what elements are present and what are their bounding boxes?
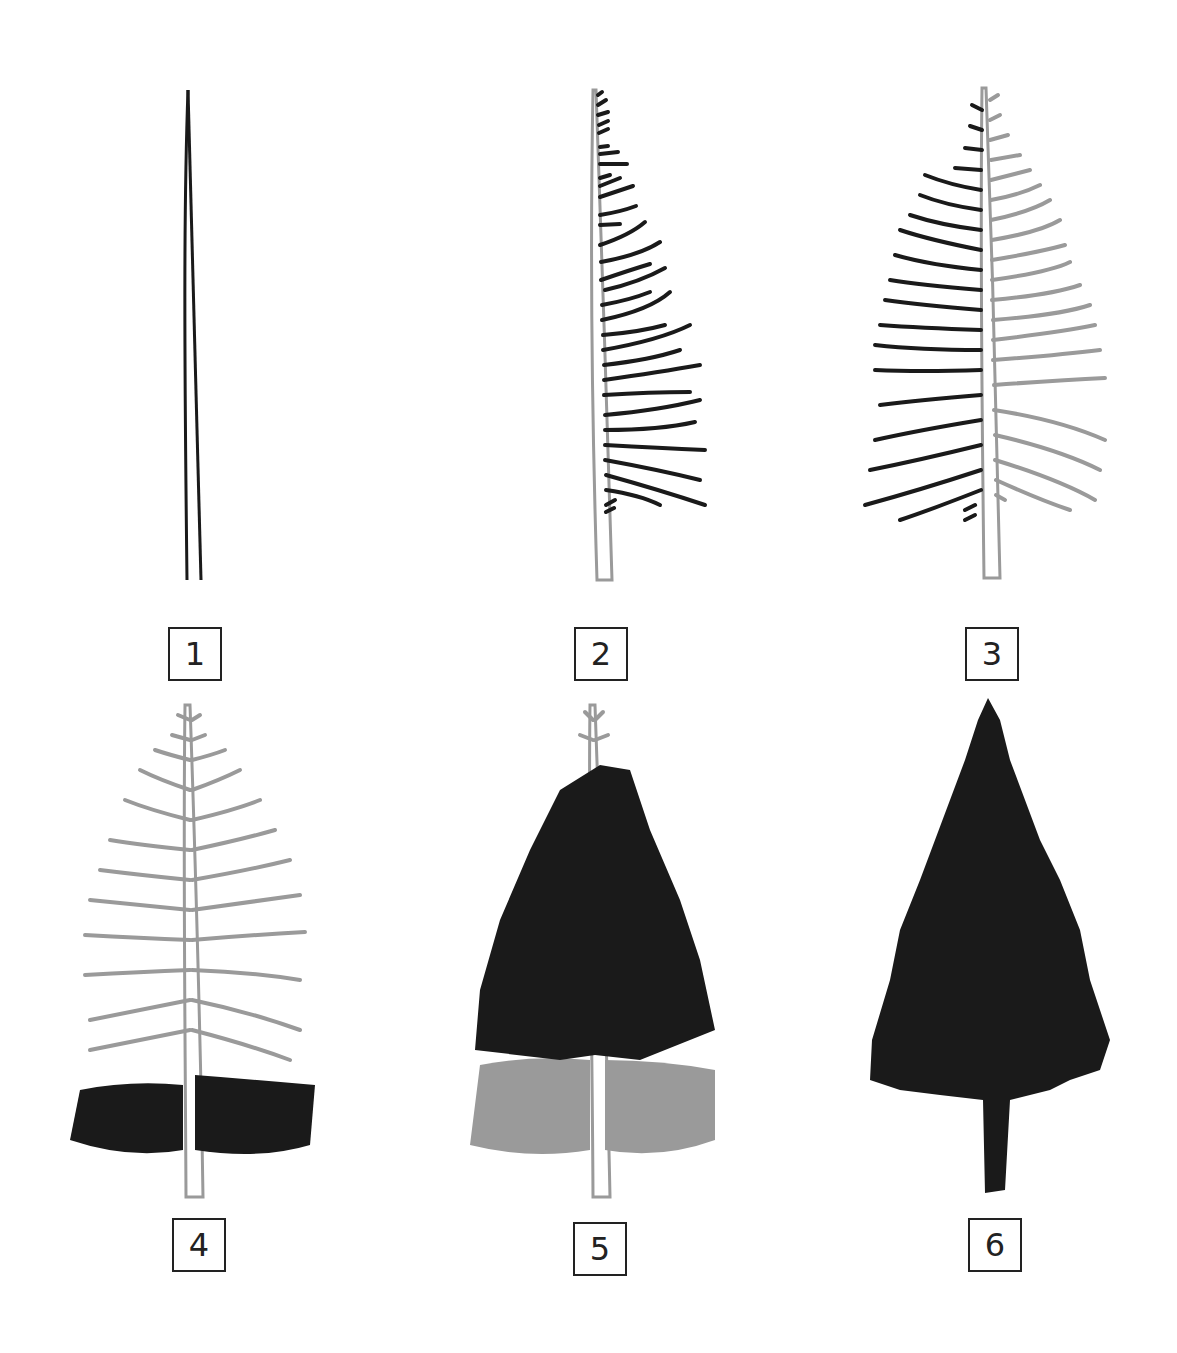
fir-tree-silhouette-icon (0, 0, 1177, 1353)
step-6-drawing (0, 0, 1177, 1353)
step-label-6: 6 (968, 1218, 1022, 1272)
